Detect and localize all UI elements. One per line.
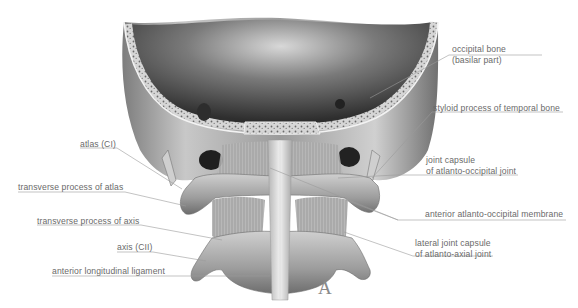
panel-letter: A	[318, 277, 332, 299]
label-lateral-capsule-line2: of atlanto-axial joint	[415, 249, 491, 260]
label-axis: axis (CII)	[117, 242, 152, 253]
label-lateral-joint-capsule-atlanto-axial: lateral joint capsule of atlanto-axial j…	[415, 238, 491, 259]
label-styloid-process: styloid process of temporal bone	[433, 103, 560, 114]
label-anterior-longitudinal-ligament: anterior longitudinal ligament	[52, 266, 165, 277]
label-anterior-atlanto-occipital-membrane: anterior atlanto-occipital membrane	[425, 209, 563, 220]
label-atlas: atlas (CI)	[80, 139, 116, 150]
anterior-longitudinal-ligament	[268, 140, 292, 300]
label-joint-capsule-line2: of atlanto-occipital joint	[426, 166, 516, 177]
label-transverse-process-axis: transverse process of axis	[37, 216, 139, 227]
label-joint-capsule-line1: joint capsule	[426, 155, 516, 166]
label-occipital-bone: occipital bone (basilar part)	[452, 44, 506, 65]
label-occipital-bone-line2: (basilar part)	[452, 55, 506, 66]
label-occipital-bone-line1: occipital bone	[452, 44, 506, 55]
label-lateral-capsule-line1: lateral joint capsule	[415, 238, 491, 249]
label-joint-capsule-atlanto-occipital: joint capsule of atlanto-occipital joint	[426, 155, 516, 176]
label-transverse-process-atlas: transverse process of atlas	[18, 182, 123, 193]
